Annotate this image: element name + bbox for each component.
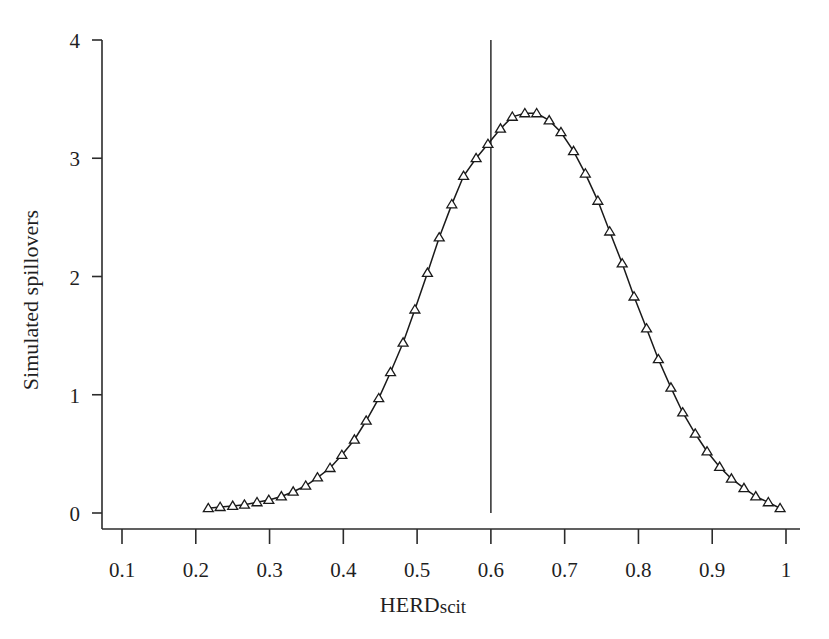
y-tick-label-3: 3 (70, 147, 81, 171)
data-point-marker (410, 305, 420, 313)
y-axis-title: Simulated spillovers (18, 210, 43, 390)
data-point-marker (775, 503, 785, 511)
x-axis-ticks (122, 529, 786, 544)
data-point-marker (751, 492, 761, 500)
x-tick-label-0.2: 0.2 (183, 558, 209, 582)
y-tick-label-2: 2 (70, 266, 81, 290)
x-tick-label-0.3: 0.3 (256, 558, 282, 582)
data-point-marker (593, 196, 603, 204)
data-point-marker (642, 324, 652, 332)
data-point-marker (398, 338, 408, 346)
x-tick-label-0.4: 0.4 (330, 558, 357, 582)
data-point-marker (386, 367, 396, 375)
x-tick-label-1: 1 (781, 558, 792, 582)
x-axis-title-main: HERD (380, 592, 440, 617)
data-point-marker (361, 416, 371, 424)
y-tick-label-4: 4 (70, 29, 81, 53)
data-point-marker (653, 354, 663, 362)
data-point-marker (301, 481, 311, 489)
x-tick-label-0.1: 0.1 (109, 558, 135, 582)
data-point-marker (374, 393, 384, 401)
data-point-marker (447, 200, 457, 208)
data-point-marker (580, 169, 590, 177)
y-tick-label-0: 0 (70, 502, 81, 526)
series-line (208, 113, 780, 508)
data-point-marker (434, 233, 444, 241)
data-point-marker (617, 259, 627, 267)
x-axis-title: HERDscit (380, 592, 467, 617)
y-axis-tick-labels: 01234 (70, 29, 81, 526)
data-point-marker (544, 116, 554, 124)
data-point-marker (459, 171, 469, 179)
x-tick-label-0.6: 0.6 (478, 558, 504, 582)
data-point-marker (690, 429, 700, 437)
x-tick-label-0.8: 0.8 (625, 558, 651, 582)
y-axis-ticks (92, 40, 102, 513)
chart-figure: 01234 0.10.20.30.40.50.60.70.80.91 HERDs… (0, 0, 829, 639)
data-point-marker (702, 447, 712, 455)
distribution-plot: 01234 0.10.20.30.40.50.60.70.80.91 HERDs… (0, 0, 829, 639)
data-point-marker (605, 227, 615, 235)
data-point-marker (666, 383, 676, 391)
data-point-marker (422, 268, 432, 276)
y-tick-label-1: 1 (70, 384, 81, 408)
x-axis-tick-labels: 0.10.20.30.40.50.60.70.80.91 (109, 558, 791, 582)
data-point-marker (763, 498, 773, 506)
data-point-marker (349, 435, 359, 443)
data-point-marker (313, 473, 323, 481)
data-point-marker (569, 146, 579, 154)
data-point-marker (288, 487, 298, 495)
x-tick-label-0.9: 0.9 (699, 558, 725, 582)
data-point-marker (678, 408, 688, 416)
data-point-marker (629, 292, 639, 300)
series-markers (203, 108, 785, 511)
x-axis-title-subscript: scit (440, 596, 467, 617)
x-tick-label-0.5: 0.5 (404, 558, 430, 582)
x-tick-label-0.7: 0.7 (552, 558, 578, 582)
axis-lines (102, 40, 800, 529)
data-point-marker (739, 483, 749, 491)
